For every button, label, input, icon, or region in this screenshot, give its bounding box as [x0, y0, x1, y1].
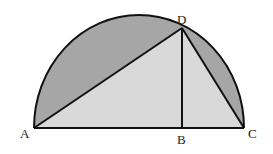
label-b: B [177, 132, 186, 147]
geometry-diagram: D A B C [0, 0, 273, 154]
label-d: D [177, 12, 186, 27]
label-a: A [20, 126, 30, 141]
label-c: C [248, 126, 257, 141]
